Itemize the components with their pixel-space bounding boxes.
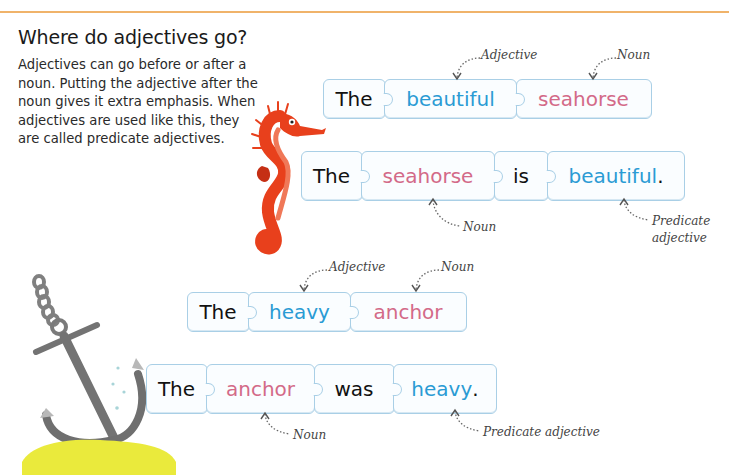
- word-piece-verb[interactable]: is: [494, 151, 549, 201]
- dotted-arrow-up-icon: [428, 196, 464, 232]
- intro-paragraph: Adjectives can go before or after a noun…: [18, 56, 258, 149]
- word-piece-verb[interactable]: was: [314, 364, 395, 414]
- word-piece-noun[interactable]: seahorse: [516, 79, 652, 119]
- word-text: The: [158, 377, 195, 401]
- sentence-seahorse-predicate: The seahorse is beautiful.: [302, 151, 685, 201]
- word-piece-adjective[interactable]: beautiful: [384, 79, 517, 119]
- word-text: The: [199, 300, 236, 324]
- dotted-arrow-up-icon: [619, 196, 655, 226]
- period-text: .: [657, 164, 663, 188]
- page-title: Where do adjectives go?: [18, 26, 247, 48]
- word-piece-article[interactable]: The: [187, 292, 250, 332]
- label-predicate-adjective: Predicate adjective: [483, 425, 600, 439]
- dotted-arrow-up-icon: [450, 407, 486, 437]
- word-text: seahorse: [538, 87, 629, 111]
- label-noun: Noun: [293, 428, 326, 442]
- sentence-anchor-predicate: The anchor was heavy.: [147, 364, 497, 414]
- dotted-arrow-down-icon: [411, 268, 441, 298]
- label-adjective: Adjective: [481, 48, 537, 62]
- period-text: .: [472, 377, 478, 401]
- word-text: The: [313, 164, 350, 188]
- word-piece-article[interactable]: The: [301, 151, 363, 201]
- word-piece-noun[interactable]: anchor: [206, 364, 315, 414]
- word-text: anchor: [373, 300, 442, 324]
- label-noun: Noun: [463, 220, 496, 234]
- dotted-arrow-down-icon: [588, 56, 618, 86]
- dotted-arrow-up-icon: [260, 410, 296, 440]
- word-piece-noun[interactable]: anchor: [350, 292, 467, 332]
- label-predicate-line2: adjective: [652, 231, 707, 245]
- word-piece-article[interactable]: The: [323, 79, 386, 119]
- word-piece-adjective[interactable]: heavy: [248, 292, 351, 332]
- sentence-anchor-attributive: The heavy anchor: [188, 292, 467, 332]
- word-text: anchor: [226, 377, 295, 401]
- word-piece-noun[interactable]: seahorse: [361, 151, 495, 201]
- word-piece-adjective[interactable]: beautiful.: [547, 151, 685, 201]
- label-predicate-line1: Predicate: [652, 214, 710, 228]
- word-text: seahorse: [383, 164, 474, 188]
- word-piece-article[interactable]: The: [146, 364, 208, 414]
- header-rule: [0, 11, 729, 13]
- word-text: is: [513, 164, 529, 188]
- label-noun: Noun: [617, 48, 650, 62]
- word-text: beautiful: [569, 164, 658, 188]
- word-text: heavy: [411, 377, 472, 401]
- dotted-arrow-down-icon: [452, 56, 482, 86]
- label-adjective: Adjective: [329, 260, 385, 274]
- label-noun: Noun: [441, 260, 474, 274]
- word-text: The: [335, 87, 372, 111]
- word-text: was: [334, 377, 373, 401]
- word-text: heavy: [269, 300, 330, 324]
- word-text: beautiful: [406, 87, 495, 111]
- dotted-arrow-down-icon: [299, 268, 329, 298]
